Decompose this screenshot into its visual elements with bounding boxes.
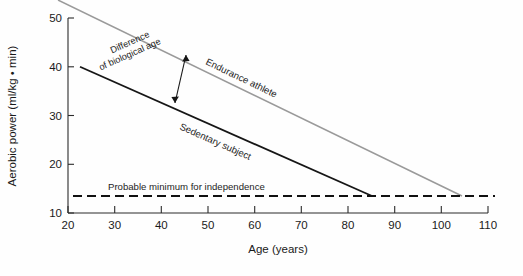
x-tick-label-30: 30 — [108, 219, 121, 231]
x-tick-label-90: 90 — [388, 219, 401, 231]
x-tick-label-70: 70 — [295, 219, 308, 231]
x-tick-label-80: 80 — [342, 219, 355, 231]
x-tick-label-60: 60 — [248, 219, 261, 231]
x-axis-title: Age (years) — [248, 243, 308, 255]
y-tick-label-50: 50 — [49, 12, 62, 24]
difference-arrow-shaft — [175, 55, 186, 103]
y-axis: 50 40 30 20 10 Aerobic power (ml/kg • mi… — [6, 12, 74, 219]
probable-minimum-label: Probable minimum for independence — [108, 181, 265, 192]
x-tick-label-50: 50 — [202, 219, 215, 231]
x-tick-label-100: 100 — [432, 219, 451, 231]
y-tick-label-20: 20 — [49, 158, 62, 170]
y-axis-title: Aerobic power (ml/kg • min) — [6, 45, 18, 186]
aerobic-power-vs-age-chart: 50 40 30 20 10 Aerobic power (ml/kg • mi… — [0, 0, 523, 276]
difference-of-biological-age-annotation: Difference of biological age — [97, 29, 189, 103]
y-tick-label-30: 30 — [49, 110, 62, 122]
x-tick-label-110: 110 — [479, 219, 497, 231]
series-line-endurance-athlete — [58, 0, 462, 196]
difference-arrow-head-top — [182, 55, 189, 62]
x-tick-label-20: 20 — [62, 219, 75, 231]
y-tick-label-10: 10 — [49, 207, 62, 219]
difference-arrow-head-bottom — [171, 97, 179, 103]
x-tick-label-40: 40 — [155, 219, 168, 231]
endurance-athlete-label: Endurance athlete — [204, 56, 279, 100]
x-axis: 20 30 40 50 60 70 80 90 100 110 Age (yea… — [62, 206, 498, 255]
y-tick-label-40: 40 — [49, 61, 62, 73]
